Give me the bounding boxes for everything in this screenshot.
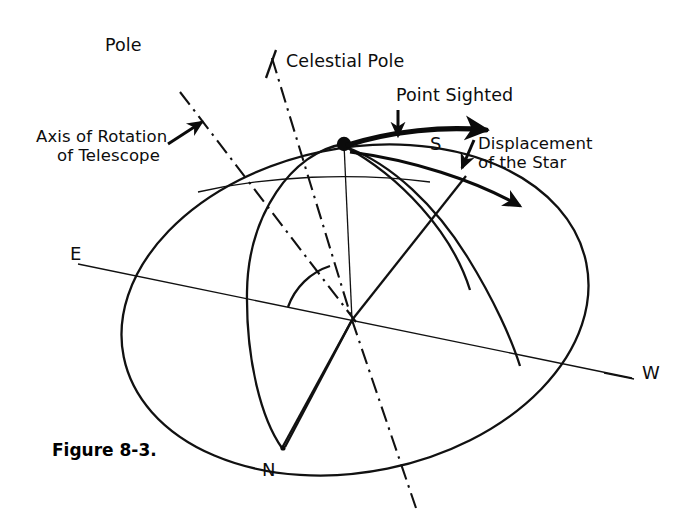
displacement-thick-arrow	[348, 129, 486, 145]
label-displacement-line1: Displacement	[478, 135, 593, 153]
label-axis-of-rotation-line1: Axis of Rotation	[36, 128, 167, 146]
south-meridian-arc	[256, 146, 470, 448]
west-leader	[604, 373, 634, 379]
north-point-marker	[280, 445, 285, 450]
figure-container: Pole Celestial Pole Point Sighted Axis o…	[0, 0, 692, 527]
telescope-axis-pointer-arrow	[168, 122, 202, 144]
label-south: S	[430, 133, 441, 154]
sighted-point-dropline	[344, 144, 352, 320]
label-displacement-line2: of the Star	[478, 154, 566, 172]
label-pole: Pole	[105, 36, 142, 55]
telescope-axis-line	[180, 92, 356, 322]
label-west: W	[642, 362, 660, 383]
celestial-pole-axis-line	[272, 58, 416, 508]
label-east: E	[70, 243, 81, 264]
label-north: N	[262, 459, 275, 480]
angle-arc	[288, 266, 330, 307]
label-point-sighted: Point Sighted	[396, 86, 513, 105]
figure-caption: Figure 8-3.	[52, 440, 157, 460]
star-path-arc	[346, 147, 520, 366]
label-axis-of-rotation-line2: of Telescope	[57, 147, 160, 165]
meridian-ellipse	[247, 144, 413, 448]
label-celestial-pole: Celestial Pole	[286, 52, 404, 71]
